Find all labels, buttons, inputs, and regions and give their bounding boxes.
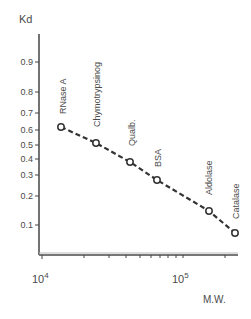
y-tick-0.3: 0.3: [20, 170, 33, 180]
y-tick-0.7: 0.7: [20, 108, 33, 118]
kd-vs-mw-chart: Kd 0.9 0.8 0.7 0.6 0.5 0.4 0.3 0.2 0.1: [0, 0, 251, 319]
y-tick-0.8: 0.8: [20, 87, 33, 97]
y-axis-title: Kd: [19, 13, 32, 25]
y-tick-0.1: 0.1: [20, 220, 33, 230]
label-bsa: BSA: [153, 149, 163, 167]
y-tick-0.6: 0.6: [20, 125, 33, 135]
y-tick-0.9: 0.9: [20, 57, 33, 67]
label-ovalbumin: Qualb.: [127, 119, 137, 146]
point-aldolase: [206, 208, 212, 214]
label-rnase-a: RNase A: [58, 78, 68, 114]
x-tick-1e5: 105: [172, 271, 189, 285]
y-tick-0.4: 0.4: [20, 154, 33, 164]
x-tick-1e4: 104: [32, 271, 49, 285]
label-catalase: Catalase: [231, 183, 241, 219]
point-catalase: [232, 230, 238, 236]
point-chymotrypsinogen: [93, 140, 99, 146]
point-rnase-a: [58, 124, 64, 130]
point-labels: RNase A Chymotrypsinog Qualb. BSA Aldola…: [58, 62, 241, 219]
point-bsa: [154, 177, 160, 183]
label-chymotrypsinogen: Chymotrypsinog: [92, 62, 102, 127]
y-tick-0.2: 0.2: [20, 191, 33, 201]
point-ovalbumin: [127, 159, 133, 165]
x-axis-title: M.W.: [203, 294, 226, 305]
y-tick-0.5: 0.5: [20, 140, 33, 150]
y-tick-labels: 0.9 0.8 0.7 0.6 0.5 0.4 0.3 0.2 0.1: [20, 57, 33, 230]
label-aldolase: Aldolase: [204, 160, 214, 195]
